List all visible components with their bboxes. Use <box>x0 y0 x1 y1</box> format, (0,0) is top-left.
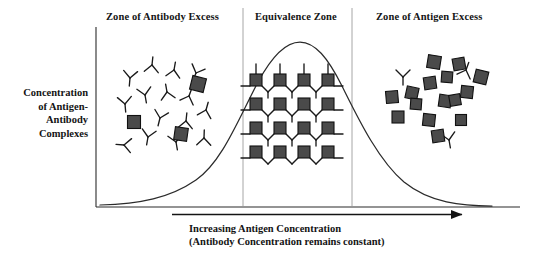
antigen-glyph <box>322 74 334 86</box>
antigen-glyph <box>298 98 310 110</box>
antibody-glyph <box>137 87 153 104</box>
antibody-glyph <box>117 96 132 112</box>
antigen-glyph <box>456 115 467 126</box>
antigen-glyph <box>385 90 398 103</box>
x-axis-label-line-2: (Antibody Concentration remains constant… <box>189 235 385 248</box>
antigen-glyph <box>274 98 286 110</box>
antigen-glyph <box>298 122 310 134</box>
antigen-glyph <box>128 116 141 129</box>
antigen-glyph <box>422 113 435 126</box>
antigen-glyph <box>452 57 466 71</box>
zone-title-equivalence: Equivalence Zone <box>255 11 337 22</box>
zone-title-antigen-excess: Zone of Antigen Excess <box>376 11 482 22</box>
antibody-glyph <box>159 83 175 100</box>
antibody-glyph <box>396 70 410 85</box>
antibody-glyph <box>144 56 159 72</box>
antigen-glyph <box>274 74 286 86</box>
antibody-glyph <box>197 100 215 118</box>
antibody-glyph <box>151 110 168 128</box>
antigen-glyph <box>250 74 262 86</box>
antigen-glyph <box>473 69 489 85</box>
zone-title-antibody-excess: Zone of Antibody Excess <box>106 11 219 22</box>
antibody-glyph <box>115 137 131 152</box>
antibody-glyph <box>197 130 212 145</box>
x-axis-label-line-1: Increasing Antigen Concentration <box>189 222 385 235</box>
antigen-glyph <box>274 146 286 158</box>
antibody-glyph <box>166 61 182 78</box>
antigen-glyph <box>298 146 310 158</box>
antigen-glyph <box>460 85 473 98</box>
particle-layer <box>115 55 488 164</box>
antigen-glyph <box>190 76 207 93</box>
y-axis-label-line-3: Antibody <box>6 113 88 127</box>
precipitin-curve-figure: Zone of Antibody Excess Equivalence Zone… <box>0 0 540 267</box>
antigen-glyph <box>431 129 445 143</box>
antigen-glyph <box>250 146 262 158</box>
antibody-glyph <box>178 112 193 128</box>
antigen-glyph <box>441 71 453 83</box>
antigen-glyph <box>298 74 310 86</box>
antigen-glyph <box>322 146 334 158</box>
antigen-glyph <box>449 94 462 107</box>
antigen-glyph <box>250 98 262 110</box>
y-axis-label-line-2: of Antigen- <box>6 100 88 114</box>
antigen-glyph <box>410 98 422 110</box>
x-axis-label: Increasing Antigen Concentration (Antibo… <box>189 222 385 248</box>
antigen-glyph <box>423 76 437 90</box>
antibody-glyph <box>122 70 137 86</box>
antigen-glyph <box>250 122 262 134</box>
antigen-glyph <box>392 111 404 123</box>
antigen-glyph <box>322 98 334 110</box>
y-axis-label-line-1: Concentration <box>6 86 88 100</box>
antibody-glyph <box>140 129 156 146</box>
antigen-glyph <box>274 122 286 134</box>
antigen-antibody-lattice <box>241 64 343 164</box>
y-axis-label: Concentration of Antigen- Antibody Compl… <box>6 86 88 140</box>
antigen-glyph <box>322 122 334 134</box>
y-axis-label-line-4: Complexes <box>6 127 88 141</box>
antigen-glyph <box>427 55 442 70</box>
antigen-glyph <box>174 127 189 142</box>
